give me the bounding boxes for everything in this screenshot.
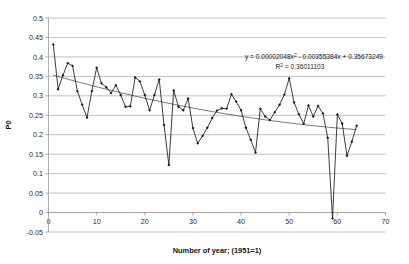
x-tick-label: 20	[141, 217, 149, 226]
y-axis-tick-labels: -0.0500.050.10.150.20.250.30.350.40.450.…	[27, 14, 43, 237]
data-point-marker	[187, 97, 190, 100]
y-tick-label: 0.45	[29, 33, 43, 42]
y-axis-title: P0	[4, 120, 13, 129]
data-point-marker	[129, 105, 132, 108]
trendline	[53, 75, 356, 129]
data-point-marker	[57, 88, 60, 91]
y-tick-label: 0.05	[29, 189, 43, 198]
x-tick-label: 40	[237, 217, 245, 226]
data-point-marker	[163, 124, 166, 127]
y-tick-label: 0.35	[29, 72, 43, 81]
chart-plot: -0.0500.050.10.150.20.250.30.350.40.450.…	[0, 0, 409, 264]
y-tick-label: 0	[39, 208, 43, 217]
data-point-marker	[307, 104, 310, 107]
data-point-marker	[244, 126, 247, 129]
y-tick-label: 0.4	[33, 53, 43, 62]
trendline-equation-label: y = 0.00002048x2 - 0.00355384x + 0.35673…	[245, 53, 383, 61]
data-series-line	[53, 44, 356, 218]
data-point-marker	[350, 140, 353, 143]
y-tick-label: -0.05	[27, 228, 43, 237]
y-tick-label: 0.2	[33, 130, 43, 139]
x-axis-tick-labels: 010203040506070	[47, 217, 390, 226]
data-point-marker	[254, 151, 257, 154]
x-tick-label: 10	[93, 217, 101, 226]
x-tick-label: 60	[333, 217, 341, 226]
chart-container: -0.0500.050.10.150.20.250.30.350.40.450.…	[0, 0, 409, 264]
data-point-marker	[293, 101, 296, 104]
data-point-marker	[90, 90, 93, 93]
data-point-marker	[172, 89, 175, 92]
y-tick-label: 0.3	[33, 91, 43, 100]
data-point-marker	[167, 164, 170, 167]
gridlines-group	[49, 18, 386, 232]
x-tick-label: 70	[382, 217, 390, 226]
data-point-marker	[81, 103, 84, 106]
x-tick-label: 50	[285, 217, 293, 226]
x-tick-label: 30	[189, 217, 197, 226]
data-point-marker	[124, 105, 127, 108]
y-tick-label: 0.5	[33, 14, 43, 23]
x-axis-title: Number of year; (1951=1)	[173, 246, 262, 255]
r-squared-label: R2 = 0.36011103	[276, 63, 325, 70]
data-point-marker	[76, 90, 79, 93]
data-point-marker	[355, 124, 358, 127]
data-point-marker	[288, 77, 291, 80]
data-point-marker	[158, 78, 161, 81]
tickmarks-group	[46, 18, 386, 232]
data-point-marker	[249, 138, 252, 141]
data-point-marker	[346, 154, 349, 157]
data-point-marker	[225, 107, 228, 110]
y-tick-label: 0.1	[33, 169, 43, 178]
data-point-marker	[326, 136, 329, 139]
data-point-marker	[52, 43, 55, 46]
data-point-marker	[220, 107, 223, 110]
data-point-marker	[148, 109, 151, 112]
data-point-marker	[86, 116, 89, 119]
data-point-marker	[191, 127, 194, 130]
y-tick-label: 0.15	[29, 150, 43, 159]
y-tick-label: 0.25	[29, 111, 43, 120]
data-point-marker	[95, 66, 98, 69]
